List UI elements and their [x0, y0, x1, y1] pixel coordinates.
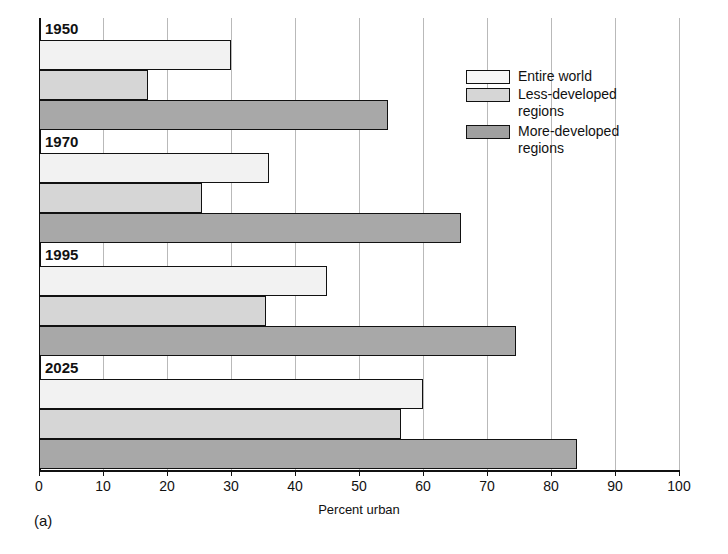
legend-label-more: More-developed regions: [518, 123, 619, 157]
x-axis-title: Percent urban: [39, 502, 679, 517]
x-tick-label-60: 60: [415, 478, 431, 494]
legend-item-less: Less-developed regions: [466, 86, 676, 122]
legend-swatch-entire-icon: [466, 70, 510, 84]
bar-1995-more-developed-regions: [39, 326, 516, 356]
bar-1970-less-developed-regions: [39, 183, 202, 213]
bar-group-1995: 1995: [39, 244, 680, 357]
legend-label-entire: Entire world: [518, 68, 592, 85]
x-tick-label-20: 20: [159, 478, 175, 494]
legend-swatch-more-icon: [466, 125, 510, 139]
bar-1995-less-developed-regions: [39, 296, 266, 326]
figure-panel: 0102030405060708090100 1950197019952025 …: [0, 0, 728, 554]
x-tick-80: [551, 470, 552, 476]
x-tick-60: [423, 470, 424, 476]
bar-1950-less-developed-regions: [39, 70, 148, 100]
x-tick-label-40: 40: [287, 478, 303, 494]
group-label-2025: 2025: [45, 359, 78, 376]
x-tick-20: [167, 470, 168, 476]
x-tick-label-50: 50: [351, 478, 367, 494]
x-tick-0: [39, 470, 40, 476]
bar-1995-entire-world: [39, 266, 327, 296]
x-tick-10: [103, 470, 104, 476]
legend-swatch-less-icon: [466, 88, 510, 102]
x-tick-label-70: 70: [479, 478, 495, 494]
x-tick-100: [679, 470, 680, 476]
legend-label-less: Less-developed regions: [518, 86, 617, 120]
x-tick-label-30: 30: [223, 478, 239, 494]
x-tick-50: [359, 470, 360, 476]
x-tick-label-90: 90: [607, 478, 623, 494]
legend-item-more: More-developed regions: [466, 123, 676, 159]
bar-1970-more-developed-regions: [39, 213, 461, 243]
legend-item-entire: Entire world: [466, 68, 676, 85]
x-tick-label-80: 80: [543, 478, 559, 494]
bar-1950-entire-world: [39, 40, 231, 70]
chart-legend: Entire worldLess-developed regionsMore-d…: [466, 68, 676, 160]
x-tick-label-100: 100: [667, 478, 690, 494]
x-tick-30: [231, 470, 232, 476]
bar-2025-less-developed-regions: [39, 409, 401, 439]
figure-caption: (a): [34, 512, 52, 529]
group-label-1970: 1970: [45, 133, 78, 150]
x-tick-label-10: 10: [95, 478, 111, 494]
bar-2025-entire-world: [39, 379, 423, 409]
x-tick-40: [295, 470, 296, 476]
x-tick-90: [615, 470, 616, 476]
group-label-1950: 1950: [45, 20, 78, 37]
bar-1970-entire-world: [39, 153, 269, 183]
group-label-1995: 1995: [45, 246, 78, 263]
x-tick-label-0: 0: [35, 478, 43, 494]
x-tick-70: [487, 470, 488, 476]
bar-group-2025: 2025: [39, 357, 680, 470]
bar-2025-more-developed-regions: [39, 439, 577, 469]
bar-1950-more-developed-regions: [39, 100, 388, 130]
